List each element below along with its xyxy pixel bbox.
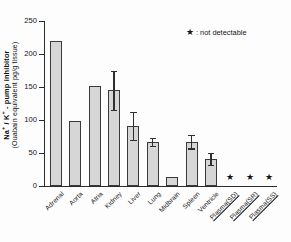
- y-tick: 250: [39, 21, 44, 22]
- bar: [69, 121, 81, 186]
- y-tick: 150: [39, 87, 44, 88]
- bar: [50, 41, 62, 186]
- error-bar-cap-upper: [208, 153, 214, 154]
- x-axis-label: Aorta: [68, 190, 84, 206]
- not-detectable-star-icon: ★: [265, 173, 273, 182]
- y-axis-title-text: Na+ / K+ - pump inhibitor (Ouabain equiv…: [2, 42, 20, 149]
- x-axis-label: Atria: [89, 190, 104, 205]
- y-tick: 50: [39, 153, 44, 154]
- error-bar: [210, 153, 211, 165]
- not-detectable-star-icon: ★: [246, 173, 254, 182]
- y-axis-line: [44, 21, 45, 186]
- y-axis-title-line2: (Ouabain equivalent pg/g tissue): [11, 42, 20, 149]
- error-bar: [133, 112, 134, 140]
- x-axis-label: Kidney: [103, 190, 123, 210]
- y-tick-label: 100: [24, 115, 37, 124]
- y-tick: 200: [39, 54, 44, 55]
- error-bar-cap-lower: [150, 146, 156, 147]
- y-tick-label: 200: [24, 49, 37, 58]
- error-bar: [191, 135, 192, 148]
- bar: [166, 177, 178, 186]
- y-axis-title: Na+ / K+ - pump inhibitor (Ouabain equiv…: [0, 0, 22, 190]
- y-tick-label: 150: [24, 82, 37, 91]
- x-axis-label: Adrenal: [43, 190, 65, 212]
- y-tick-label: 0: [33, 181, 37, 190]
- x-axis-label: Lung: [146, 190, 162, 206]
- error-bar-cap-lower: [208, 165, 214, 166]
- y-tick-label: 50: [29, 148, 37, 157]
- error-bar-cap-lower: [130, 140, 136, 141]
- error-bar: [113, 71, 114, 111]
- bar: [147, 142, 159, 186]
- plot-area: 050100150200250 ★★★ AdrenalAortaAtriaKid…: [44, 21, 277, 186]
- error-bar-cap-lower: [111, 110, 117, 111]
- x-axis-line: [44, 186, 277, 187]
- y-tick: 0: [39, 186, 44, 187]
- error-bar-cap-lower: [188, 148, 194, 149]
- y-tick-label: 250: [24, 16, 37, 25]
- error-bar-cap-upper: [130, 112, 136, 113]
- y-axis-title-line1: Na+ / K+ - pump inhibitor: [2, 42, 11, 149]
- error-bar-cap-upper: [111, 71, 117, 72]
- chart-figure: Na+ / K+ - pump inhibitor (Ouabain equiv…: [0, 0, 291, 242]
- error-bar-cap-upper: [188, 135, 194, 136]
- bar: [89, 86, 101, 186]
- y-tick: 100: [39, 120, 44, 121]
- not-detectable-star-icon: ★: [226, 173, 234, 182]
- x-axis-label: Liver: [127, 190, 142, 205]
- error-bar-cap-upper: [150, 138, 156, 139]
